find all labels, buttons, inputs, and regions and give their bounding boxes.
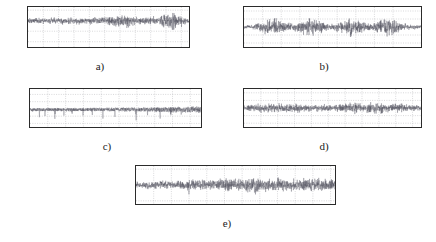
panel-a-caption: a) (10, 60, 190, 72)
figure-root: 0.10-0.1-0.2 0.20.40.60.811.21.41.61.82 … (0, 0, 436, 242)
panel-b-signal-trace (244, 7, 421, 47)
panel-d-plot-area: 0.40.20-0.2-0.4 0.20.40.60.811.21.41.61.… (243, 88, 422, 128)
panel-e-plot-area: 0.50-0.5 0.20.40.60.811.21.41.61.822.2 (135, 165, 336, 205)
panel-e-xtick-labels: 0.20.40.60.811.21.41.61.822.2 (136, 204, 335, 205)
panel-b-caption: b) (226, 60, 422, 72)
panel-c: -1.2-1.4-1.6-1.8-2 500100015002000250030… (12, 88, 202, 138)
panel-c-plot-area: -1.2-1.4-1.6-1.8-2 500100015002000250030… (29, 88, 202, 128)
panel-c-ytick-labels: -1.2-1.4-1.6-1.8-2 (29, 89, 30, 127)
panel-d-caption: d) (226, 140, 422, 152)
panel-a-ytick-labels: 0.10-0.1-0.2 (27, 7, 28, 47)
panel-a-plot-area: 0.10-0.1-0.2 0.20.40.60.811.21.41.61.82 (27, 6, 190, 48)
panel-e: 0.50-0.5 0.20.40.60.811.21.41.61.822.2 e… (118, 165, 336, 217)
panel-e-caption: e) (118, 217, 336, 229)
panel-c-caption: c) (12, 140, 202, 152)
panel-b-ytick-labels: 0.40.20-0.2-0.4 (243, 7, 244, 47)
panel-e-signal-trace (136, 166, 335, 204)
panel-a-signal-trace (28, 7, 189, 47)
panel-d-xtick-labels: 0.20.40.60.811.21.41.61.82 (244, 127, 421, 128)
panel-a: 0.10-0.1-0.2 0.20.40.60.811.21.41.61.82 … (10, 6, 190, 58)
panel-d-signal-trace (244, 89, 421, 127)
panel-e-ytick-labels: 0.50-0.5 (135, 166, 136, 204)
panel-c-xtick-labels: 50010001500200025003000350040004500 (30, 127, 201, 128)
panel-b-plot-area: 0.40.20-0.2-0.4 200040006000800010000120… (243, 6, 422, 48)
panel-c-signal-trace (30, 89, 201, 127)
panel-b-xtick-labels: 200040006000800010000120001400016000 (244, 47, 421, 48)
panel-a-xtick-labels: 0.20.40.60.811.21.41.61.82 (28, 47, 189, 48)
panel-d-ytick-labels: 0.40.20-0.2-0.4 (243, 89, 244, 127)
panel-d: 0.40.20-0.2-0.4 0.20.40.60.811.21.41.61.… (226, 88, 422, 138)
panel-b: 0.40.20-0.2-0.4 200040006000800010000120… (226, 6, 422, 58)
